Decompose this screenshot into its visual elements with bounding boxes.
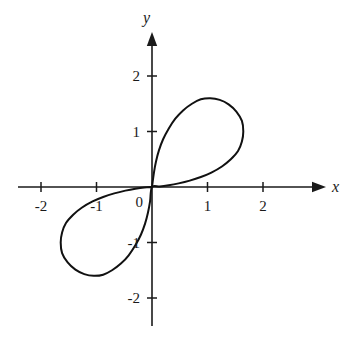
- origin-label: 0: [136, 194, 144, 210]
- x-tick-label-neg1: -1: [90, 198, 103, 214]
- x-tick-label-2: 2: [259, 198, 267, 214]
- y-tick-label-neg1: -1: [128, 235, 141, 251]
- y-axis-arrow-icon: [147, 32, 157, 46]
- x-tick-label-neg2: -2: [35, 198, 48, 214]
- plot-canvas: -2-11221-1-2 x y 0: [0, 0, 348, 340]
- y-tick-label-1: 1: [133, 124, 141, 140]
- y-tick-label-2: 2: [133, 68, 141, 84]
- y-axis-label: y: [141, 9, 151, 27]
- x-axis-label: x: [331, 178, 339, 195]
- y-tick-label-neg2: -2: [128, 290, 141, 306]
- curve-plot-figure: -2-11221-1-2 x y 0: [0, 0, 348, 340]
- axes-group: [18, 32, 326, 326]
- x-axis-arrow-icon: [312, 182, 326, 192]
- x-tick-label-1: 1: [204, 198, 212, 214]
